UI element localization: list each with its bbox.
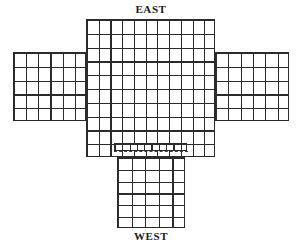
center-block bbox=[86, 19, 215, 157]
left-wing-block bbox=[13, 52, 86, 121]
fine-strip-row bbox=[114, 143, 187, 151]
direction-label-east: EAST bbox=[0, 3, 302, 15]
bottom-stem-block bbox=[117, 157, 185, 228]
figure-canvas: EAST WEST bbox=[0, 0, 302, 248]
direction-label-west: WEST bbox=[0, 230, 302, 242]
right-wing-block bbox=[215, 52, 289, 121]
dashed-seam-line bbox=[114, 151, 188, 152]
